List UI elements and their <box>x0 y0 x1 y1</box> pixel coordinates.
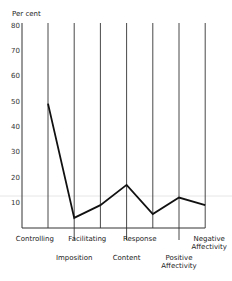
y-tick-label: 40 <box>11 123 20 131</box>
category-label: Facilitating <box>68 235 106 243</box>
y-tick-label: 50 <box>11 98 20 106</box>
y-tick-label: 30 <box>11 148 20 156</box>
category-label: PositiveAffectivity <box>161 254 196 270</box>
category-label: NegativeAffectivity <box>191 235 226 251</box>
y-tick-label: 80 <box>11 22 20 30</box>
line-chart: Per cent 1020304050607080 ControllingImp… <box>0 0 232 281</box>
y-axis-title: Per cent <box>12 10 41 18</box>
y-tick-label: 10 <box>11 199 20 207</box>
y-ticks: 1020304050607080 <box>11 22 20 208</box>
y-tick-label: 70 <box>11 47 20 55</box>
y-tick-label: 60 <box>11 72 20 80</box>
category-label: Response <box>123 235 157 243</box>
y-tick-label: 20 <box>11 174 20 182</box>
category-label: Controlling <box>16 235 54 243</box>
category-labels: ControllingImpositionFacilitatingContent… <box>16 235 227 270</box>
category-label: Imposition <box>56 254 93 262</box>
category-label: Content <box>113 254 141 262</box>
